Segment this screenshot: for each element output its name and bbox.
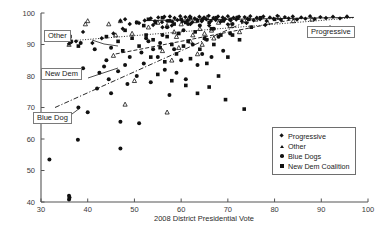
data-point-new-dem-coalition	[247, 18, 251, 22]
data-point-progressive	[90, 41, 94, 45]
data-point-new-dem-coalition	[170, 43, 174, 47]
data-point-blue-dogs	[142, 61, 146, 65]
data-point-new-dem-coalition	[142, 24, 146, 28]
data-point-new-dem-coalition	[196, 19, 200, 23]
data-point-blue-dogs	[156, 55, 160, 59]
data-point-progressive	[324, 16, 328, 20]
data-point-blue-dogs	[47, 157, 51, 161]
legend-item-other: Other	[277, 141, 350, 151]
data-point-other	[107, 22, 111, 26]
data-point-progressive	[183, 15, 187, 19]
y-tick-label: 40	[27, 198, 35, 207]
data-point-progressive	[168, 14, 172, 18]
data-point-progressive	[299, 15, 303, 19]
data-point-other	[130, 31, 134, 35]
data-point-blue-dogs	[128, 55, 132, 59]
data-point-new-dem-coalition	[168, 19, 172, 23]
data-point-new-dem-coalition	[242, 107, 246, 111]
data-point-blue-dogs	[191, 43, 195, 47]
data-point-new-dem-coalition	[149, 55, 153, 59]
data-point-new-dem-coalition	[123, 29, 127, 33]
data-point-blue-dogs	[95, 87, 99, 91]
data-point-blue-dogs	[184, 77, 188, 81]
data-point-new-dem-coalition	[116, 40, 120, 44]
data-point-new-dem-coalition	[105, 35, 109, 39]
data-point-other	[212, 36, 216, 40]
data-point-progressive	[81, 30, 85, 34]
data-point-new-dem-coalition	[135, 21, 139, 25]
callout-progressive: Progressive	[307, 26, 355, 38]
data-point-blue-dogs	[107, 77, 111, 81]
data-point-blue-dogs	[167, 93, 171, 97]
data-point-new-dem-coalition	[77, 44, 81, 48]
data-point-blue-dogs	[118, 146, 122, 150]
x-tick-label: 90	[317, 205, 325, 214]
legend-item-progressive: Progressive	[277, 131, 350, 141]
data-point-blue-dogs	[231, 22, 235, 26]
data-point-progressive	[318, 15, 322, 19]
data-point-new-dem-coalition	[193, 30, 197, 34]
data-point-blue-dogs	[76, 138, 80, 142]
data-point-progressive	[331, 15, 335, 19]
data-point-blue-dogs	[109, 46, 113, 50]
data-point-blue-dogs	[125, 82, 129, 86]
data-point-blue-dogs	[139, 50, 143, 54]
data-point-blue-dogs	[109, 91, 113, 95]
diamond-marker-icon	[277, 134, 287, 137]
data-point-new-dem-coalition	[177, 32, 181, 36]
callout-other: Other	[44, 30, 71, 42]
data-point-blue-dogs	[210, 55, 214, 59]
data-point-new-dem-coalition	[200, 18, 204, 22]
data-point-new-dem-coalition	[121, 49, 125, 53]
data-point-new-dem-coalition	[184, 84, 188, 88]
data-point-new-dem-coalition	[137, 44, 141, 48]
data-point-new-dem-coalition	[214, 16, 218, 20]
data-point-blue-dogs	[104, 58, 108, 62]
data-point-new-dem-coalition	[161, 16, 165, 20]
legend-item-new-dem-coalition: New Dem Coalition	[277, 161, 350, 171]
data-point-blue-dogs	[151, 47, 155, 51]
data-point-new-dem-coalition	[259, 16, 263, 20]
data-point-blue-dogs	[165, 25, 169, 29]
data-point-new-dem-coalition	[221, 19, 225, 23]
square-marker-icon	[277, 164, 287, 167]
legend-label-new-dem-coalition: New Dem Coalition	[288, 162, 350, 171]
x-tick-label: 30	[37, 205, 45, 214]
data-point-new-dem-coalition	[184, 21, 188, 25]
data-point-progressive	[345, 14, 349, 18]
data-point-blue-dogs	[158, 41, 162, 45]
data-point-new-dem-coalition	[235, 16, 239, 20]
x-tick-label: 80	[270, 205, 278, 214]
data-point-blue-dogs	[118, 120, 122, 124]
data-point-other	[132, 79, 136, 83]
data-point-new-dem-coalition	[182, 44, 186, 48]
data-point-blue-dogs	[67, 194, 71, 198]
data-point-new-dem-coalition	[175, 52, 179, 56]
data-point-other	[202, 31, 206, 35]
callout-blue-dog: Blue Dog	[33, 112, 72, 124]
y-tick-label: 80	[27, 72, 35, 81]
chart-legend: Progressive Other Blue Dogs New Dem Coal…	[272, 127, 356, 175]
data-point-new-dem-coalition	[238, 38, 242, 42]
data-point-new-dem-coalition	[273, 18, 277, 22]
data-point-new-dem-coalition	[224, 98, 228, 102]
callout-progressive-label: Progressive	[311, 27, 351, 36]
data-point-blue-dogs	[221, 49, 225, 53]
data-point-new-dem-coalition	[165, 35, 169, 39]
data-point-other	[165, 110, 169, 114]
data-point-progressive	[74, 39, 78, 43]
data-point-other	[237, 30, 241, 34]
legend-label-blue-dogs: Blue Dogs	[288, 152, 321, 161]
data-point-blue-dogs	[174, 71, 178, 75]
data-point-blue-dogs	[146, 39, 150, 43]
data-point-blue-dogs	[149, 80, 153, 84]
data-point-progressive	[303, 16, 307, 20]
data-point-new-dem-coalition	[219, 33, 223, 37]
data-point-other	[111, 53, 115, 57]
data-point-progressive	[128, 22, 132, 26]
data-point-progressive	[143, 18, 147, 22]
data-point-new-dem-coalition	[130, 36, 134, 40]
data-point-new-dem-coalition	[151, 38, 155, 42]
data-point-new-dem-coalition	[210, 27, 214, 31]
data-point-new-dem-coalition	[154, 21, 158, 25]
